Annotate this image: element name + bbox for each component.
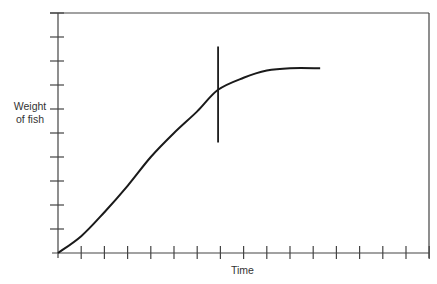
y-axis-label-line-2: of fish [6, 113, 54, 126]
growth-chart [0, 0, 437, 284]
y-axis-label-line-1: Weight [6, 100, 54, 113]
frame [50, 13, 429, 258]
x-axis-label: Time [231, 264, 254, 276]
y-axis-label: Weight of fish [6, 100, 54, 126]
growth-curve [58, 68, 320, 253]
